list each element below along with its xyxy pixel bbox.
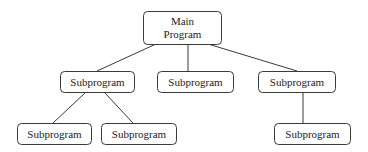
node-sub-center: Subprogram xyxy=(158,72,234,93)
node-label: Main xyxy=(171,15,195,27)
node-main: MainProgram xyxy=(144,12,222,45)
node-label: Program xyxy=(164,28,202,40)
node-label: Subprogram xyxy=(112,128,167,140)
node-sub-left: Subprogram xyxy=(61,72,135,93)
edge-main-to-sub_right xyxy=(208,44,297,71)
edge-sub_left-to-sub_left_a xyxy=(53,92,86,123)
nodes: MainProgramSubprogramSubprogramSubprogra… xyxy=(18,12,351,145)
node-label: Subprogram xyxy=(270,76,325,88)
hierarchy-diagram: MainProgramSubprogramSubprogramSubprogra… xyxy=(0,0,368,152)
node-label: Subprogram xyxy=(285,128,340,140)
edge-sub_left-to-sub_left_b xyxy=(104,92,133,123)
node-sub-left-a: Subprogram xyxy=(18,124,92,145)
node-sub-right: Subprogram xyxy=(259,72,336,93)
node-label: Subprogram xyxy=(70,76,125,88)
edge-main-to-sub_left xyxy=(97,44,156,71)
node-sub-right-a: Subprogram xyxy=(275,124,351,145)
node-label: Subprogram xyxy=(27,128,82,140)
node-sub-left-b: Subprogram xyxy=(102,124,177,145)
node-label: Subprogram xyxy=(168,76,223,88)
